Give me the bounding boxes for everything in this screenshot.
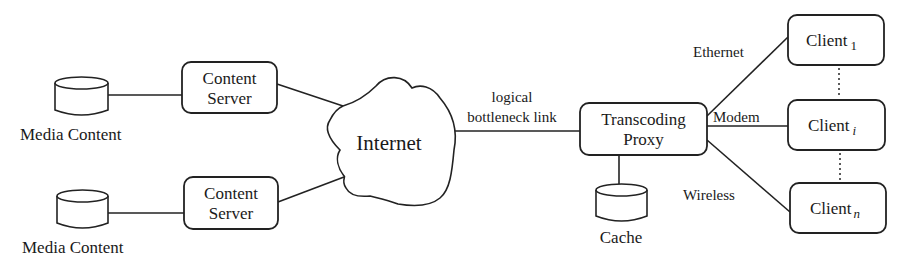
content-server-label-line2: Server [207, 89, 252, 108]
database-cylinder-icon [55, 77, 108, 115]
link-label-line1: logical [492, 89, 533, 105]
client-i: Clienti [788, 100, 885, 150]
cache: Cache [596, 184, 647, 247]
client-subscript: 1 [851, 38, 858, 53]
modem-label: Modem [713, 109, 760, 125]
connector-server-top-to-internet [277, 84, 343, 106]
proxy-label-line1: Transcoding [601, 110, 686, 129]
connector-server-bottom-to-internet [278, 177, 344, 202]
content-server-bottom: Content Server [184, 177, 278, 229]
client-1: Client1 [788, 15, 884, 65]
cache-label: Cache [600, 228, 642, 247]
svg-text:Clienti: Clienti [808, 116, 857, 138]
database-cylinder-icon [596, 184, 647, 221]
media-content-bottom: Media Content [22, 190, 124, 257]
media-content-label: Media Content [22, 238, 124, 257]
media-content-top: Media Content [20, 77, 122, 144]
internet-cloud: Internet [327, 78, 455, 206]
client-subscript: n [854, 206, 861, 221]
proxy-label-line2: Proxy [623, 130, 664, 149]
logical-bottleneck-link-label: logical bottleneck link [467, 89, 557, 125]
client-label: Client [810, 199, 852, 218]
wireless-label: Wireless [683, 187, 735, 203]
content-server-label-line1: Content [204, 184, 258, 203]
transcoding-proxy: Transcoding Proxy [580, 103, 707, 155]
database-cylinder-icon [57, 190, 108, 228]
ethernet-label: Ethernet [693, 44, 745, 60]
client-label: Client [806, 31, 848, 50]
media-content-label: Media Content [20, 125, 122, 144]
content-server-top: Content Server [182, 62, 277, 113]
internet-label: Internet [356, 131, 421, 155]
client-subscript: i [853, 123, 857, 138]
content-server-label-line2: Server [209, 204, 254, 223]
link-label-line2: bottleneck link [467, 109, 557, 125]
content-server-label-line1: Content [203, 69, 257, 88]
network-diagram: Media Content Media Content Content Serv… [0, 0, 900, 266]
client-n: Clientn [790, 183, 886, 233]
client-label: Client [808, 116, 850, 135]
